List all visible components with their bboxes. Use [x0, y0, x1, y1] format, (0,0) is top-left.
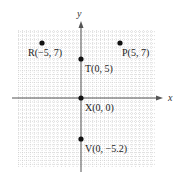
- point-t-label: T(0, 5): [85, 63, 113, 75]
- point-p-label: P(5, 7): [122, 47, 149, 59]
- coordinate-plane: x y R(−5, 7) P(5, 7) T(0, 5) X(0, 0) V(0…: [0, 0, 183, 176]
- x-axis-arrow-icon: [156, 96, 163, 101]
- x-axis-label: x: [167, 92, 173, 103]
- y-axis-arrow-icon: [79, 21, 84, 28]
- y-axis-label: y: [76, 8, 82, 19]
- point-v: [78, 136, 83, 141]
- point-t: [78, 56, 83, 61]
- point-x: [78, 95, 83, 100]
- point-r-label: R(−5, 7): [28, 47, 62, 59]
- point-x-label: X(0, 0): [85, 102, 114, 114]
- point-v-label: V(0, −5.2): [85, 143, 127, 155]
- point-p: [117, 40, 122, 45]
- point-r: [39, 40, 44, 45]
